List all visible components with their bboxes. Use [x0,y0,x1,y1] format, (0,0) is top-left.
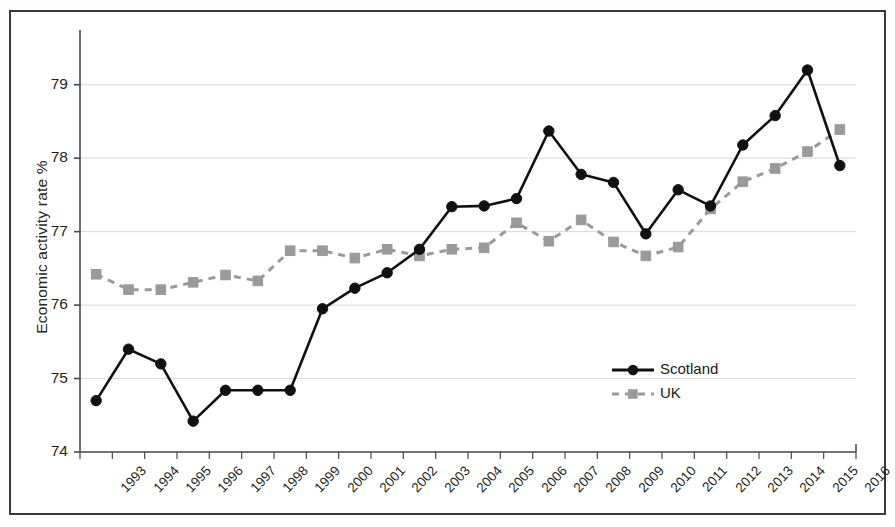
series-scotland [91,65,845,427]
chart-plot-area [0,0,895,527]
legend-label-scotland: Scotland [660,360,718,377]
chart-figure: Economic activity rate % 747576777879 19… [0,0,895,527]
axis-lines [80,30,856,452]
legend-label-uk: UK [660,384,681,401]
gridlines [80,85,856,452]
series-uk [91,125,844,295]
axis-tick-marks [74,85,856,459]
legend-markers [612,365,654,399]
